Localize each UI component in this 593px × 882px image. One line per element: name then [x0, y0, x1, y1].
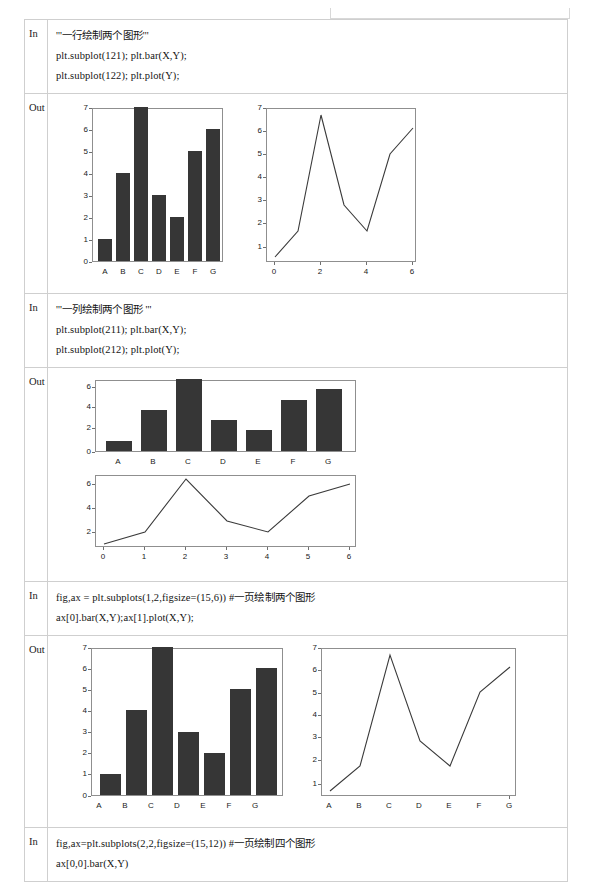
ytick-label: 1 — [73, 770, 87, 778]
plot-area — [95, 380, 356, 452]
xtick-label: F — [188, 268, 202, 276]
code-line: ax[0].bar(X,Y);ax[1].plot(X,Y); — [56, 608, 567, 628]
bar-C — [134, 107, 148, 261]
xtick-label: F — [222, 802, 236, 810]
code-line: fig,ax = plt.subplots(1,2,figsize=(15,6)… — [56, 588, 567, 608]
ytick-label: 3 — [74, 192, 88, 200]
bar-D — [178, 732, 199, 795]
ytick-label: 4 — [77, 403, 91, 411]
ytick-label: 1 — [248, 243, 262, 251]
ytick-label: 6 — [73, 665, 87, 673]
output-cell-3: 7 6 5 4 3 2 1 0 — [48, 636, 567, 827]
xtick-label: G — [321, 458, 335, 466]
plot-area — [95, 475, 356, 547]
plot-area — [92, 108, 223, 262]
ytick-label: 5 — [74, 148, 88, 156]
line-series — [322, 649, 517, 797]
xtick-label: 2 — [313, 268, 327, 276]
bar-A — [100, 774, 121, 795]
plot-area — [321, 648, 516, 796]
ytick-label: 0 — [74, 258, 88, 266]
code-cell-3[interactable]: fig,ax = plt.subplots(1,2,figsize=(15,6)… — [48, 582, 567, 635]
bar-G — [316, 389, 342, 451]
xtick-label: A — [322, 802, 336, 810]
code-line: plt.subplot(212); plt.plot(Y); — [56, 340, 567, 360]
ytick-label: 4 — [248, 173, 262, 181]
ytick-label: 2 — [73, 749, 87, 757]
xtick-label: F — [472, 802, 486, 810]
output-cell-2: 6 4 2 0 A B C D E F G — [48, 368, 567, 581]
plot-area — [266, 108, 416, 262]
cut-off-element-top — [330, 8, 570, 19]
xtick-label: 1 — [137, 553, 151, 561]
xtick-label: D — [152, 268, 166, 276]
ytick-label: 1 — [303, 780, 317, 788]
ytick-label: 0 — [77, 448, 91, 456]
ytick-label: 0 — [73, 792, 87, 800]
code-cell-1[interactable]: '''一行绘制两个图形''' plt.subplot(121); plt.bar… — [48, 20, 567, 93]
xtick-label: 6 — [405, 268, 419, 276]
ytick-label: 6 — [248, 127, 262, 135]
xtick-label: A — [98, 268, 112, 276]
xtick-label: 4 — [260, 553, 274, 561]
gutter-label-in-3: In — [25, 582, 48, 635]
ytick-label: 6 — [74, 126, 88, 134]
ytick-label: 5 — [73, 686, 87, 694]
bar-A — [106, 441, 132, 451]
ytick-label: 3 — [73, 728, 87, 736]
gutter-label-out-3: Out — [25, 636, 48, 827]
xtick-label: F — [286, 458, 300, 466]
code-line: plt.subplot(211); plt.bar(X,Y); — [56, 320, 567, 340]
bar-D — [152, 195, 166, 261]
code-cell-2[interactable]: '''一列绘制两个图形 ''' plt.subplot(211); plt.ba… — [48, 294, 567, 367]
ytick-label: 3 — [303, 733, 317, 741]
gutter-label-in-2: In — [25, 294, 48, 367]
bar-D — [211, 420, 237, 451]
gutter-label-in-4: In — [25, 828, 48, 881]
xtick-label: G — [248, 802, 262, 810]
code-line: '''一行绘制两个图形''' — [56, 26, 567, 46]
notebook-row-in-1: In '''一行绘制两个图形''' plt.subplot(121); plt.… — [25, 20, 567, 94]
code-line: plt.subplot(122); plt.plot(Y); — [56, 66, 567, 86]
bar-B — [141, 410, 167, 451]
xtick-label: D — [216, 458, 230, 466]
xtick-label: B — [352, 802, 366, 810]
ytick-label: 6 — [303, 666, 317, 674]
notebook-row-in-2: In '''一列绘制两个图形 ''' plt.subplot(211); plt… — [25, 294, 567, 368]
bar-F — [281, 400, 307, 451]
notebook-table: In '''一行绘制两个图形''' plt.subplot(121); plt.… — [24, 19, 568, 882]
xtick-label: 5 — [301, 553, 315, 561]
ytick-label: 4 — [77, 504, 91, 512]
xtick-label: D — [412, 802, 426, 810]
xtick-label: E — [170, 268, 184, 276]
xtick-label: G — [206, 268, 220, 276]
xtick-label: 4 — [359, 268, 373, 276]
ytick-label: 7 — [74, 104, 88, 112]
xtick-label: G — [502, 802, 516, 810]
code-line: '''一列绘制两个图形 ''' — [56, 300, 567, 320]
ytick-label: 2 — [74, 214, 88, 222]
figure-group-2: 6 4 2 0 A B C D E F G — [56, 374, 567, 574]
bar-C — [152, 647, 173, 795]
code-cell-4[interactable]: fig,ax=plt.subplots(2,2,figsize=(15,12))… — [48, 828, 567, 881]
ytick-label: 5 — [248, 150, 262, 158]
output-cell-1: 7 6 5 4 3 2 1 0 — [48, 94, 567, 293]
xtick-label: 0 — [96, 553, 110, 561]
bar-C — [176, 379, 202, 451]
ytick-label: 2 — [303, 756, 317, 764]
figure-group-1: 7 6 5 4 3 2 1 0 — [56, 100, 567, 286]
bar-E — [170, 217, 184, 261]
xtick-label: 0 — [267, 268, 281, 276]
gutter-label-out-2: Out — [25, 368, 48, 581]
ytick-label: 6 — [77, 383, 91, 391]
ytick-label: 5 — [303, 689, 317, 697]
notebook-row-in-3: In fig,ax = plt.subplots(1,2,figsize=(15… — [25, 582, 567, 636]
xtick-label: C — [134, 268, 148, 276]
bar-G — [206, 129, 220, 261]
line-series — [267, 109, 417, 263]
bar-E — [204, 753, 225, 795]
bar-E — [246, 430, 272, 451]
line-series — [96, 476, 357, 548]
gutter-label-out-1: Out — [25, 94, 48, 293]
xtick-label: 6 — [342, 553, 356, 561]
